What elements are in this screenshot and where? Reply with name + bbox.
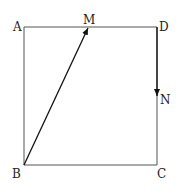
square-diagram: A M D N B C [0,0,176,190]
label-n: N [160,93,171,107]
vector-bm [24,28,88,165]
label-d: D [159,20,169,34]
label-b: B [12,167,21,181]
label-m: M [83,13,95,27]
label-c: C [157,167,166,181]
label-a: A [12,20,22,34]
